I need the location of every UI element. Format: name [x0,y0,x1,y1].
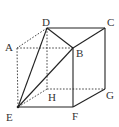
label-H: H [48,91,56,103]
label-C: C [107,16,114,28]
edge-DB [47,28,73,48]
label-G: G [106,89,114,101]
edge-EB [18,48,73,107]
label-A: A [5,41,13,53]
edge-GF [73,89,105,107]
label-E: E [6,111,13,123]
label-F: F [72,110,78,122]
edge-ED [18,28,47,107]
edge-AE [17,48,18,107]
edge-BC [73,28,105,48]
edge-DA [17,28,47,48]
vertex-point-E [17,106,20,109]
label-D: D [42,16,50,28]
cube-diagram: A B C D E F G H [0,0,119,127]
label-B: B [76,47,83,59]
